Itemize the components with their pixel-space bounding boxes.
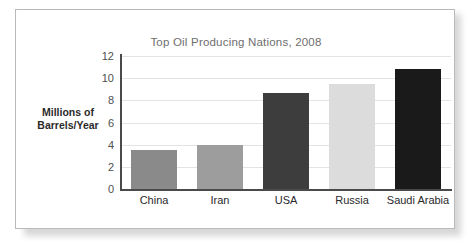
y-axis-line	[120, 54, 122, 191]
plot-area	[121, 56, 451, 189]
bar-iran	[197, 145, 243, 189]
gridline	[121, 56, 451, 57]
bar-saudi-arabia	[395, 69, 441, 189]
x-axis-line	[120, 189, 452, 191]
bar-russia	[329, 84, 375, 189]
y-tick-label: 10	[88, 73, 114, 84]
x-tick-label: Saudi Arabia	[363, 194, 471, 206]
chart-screenshot: Top Oil Producing Nations, 2008 Millions…	[0, 0, 471, 249]
bar-china	[131, 150, 177, 189]
bar-usa	[263, 93, 309, 189]
chart-title: Top Oil Producing Nations, 2008	[16, 36, 456, 48]
y-tick-label: 8	[88, 95, 114, 106]
chart-figure: Top Oil Producing Nations, 2008 Millions…	[15, 9, 455, 229]
y-tick-label: 6	[88, 118, 114, 129]
y-tick-label: 4	[88, 140, 114, 151]
y-tick-label: 2	[88, 162, 114, 173]
y-tick-label: 12	[88, 51, 114, 62]
